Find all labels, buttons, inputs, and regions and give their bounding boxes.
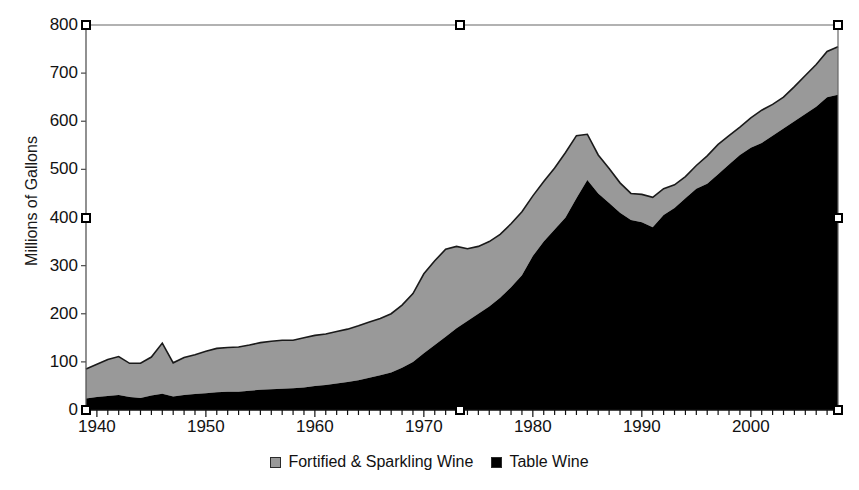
handle-bottom-center[interactable] bbox=[456, 406, 464, 414]
chart-legend[interactable]: Fortified & Sparkling WineTable Wine bbox=[0, 452, 859, 471]
handle-top-left[interactable] bbox=[82, 21, 90, 29]
chart-container[interactable]: Millions of Gallons 01002003004005006007… bbox=[0, 0, 859, 490]
x-tick-label-2000: 2000 bbox=[716, 418, 786, 435]
handle-top-right[interactable] bbox=[834, 21, 842, 29]
handle-bottom-right[interactable] bbox=[834, 406, 842, 414]
legend-swatch-icon bbox=[491, 457, 502, 468]
handle-bottom-left[interactable] bbox=[82, 406, 90, 414]
legend-entry-table-wine[interactable]: Table Wine bbox=[491, 453, 588, 471]
handle-mid-right[interactable] bbox=[834, 214, 842, 222]
x-tick-label-1960: 1960 bbox=[280, 418, 350, 435]
legend-swatch-icon bbox=[270, 457, 281, 468]
x-tick-label-1990: 1990 bbox=[607, 418, 677, 435]
handle-mid-left[interactable] bbox=[82, 214, 90, 222]
legend-label: Table Wine bbox=[509, 453, 588, 471]
handle-top-center[interactable] bbox=[456, 21, 464, 29]
x-tick-label-1970: 1970 bbox=[389, 418, 459, 435]
x-tick-label-1940: 1940 bbox=[62, 418, 132, 435]
x-tick-label-1950: 1950 bbox=[171, 418, 241, 435]
legend-entry-fortified-sparkling-wine[interactable]: Fortified & Sparkling Wine bbox=[270, 453, 473, 471]
legend-label: Fortified & Sparkling Wine bbox=[288, 453, 473, 471]
x-tick-label-1980: 1980 bbox=[498, 418, 568, 435]
